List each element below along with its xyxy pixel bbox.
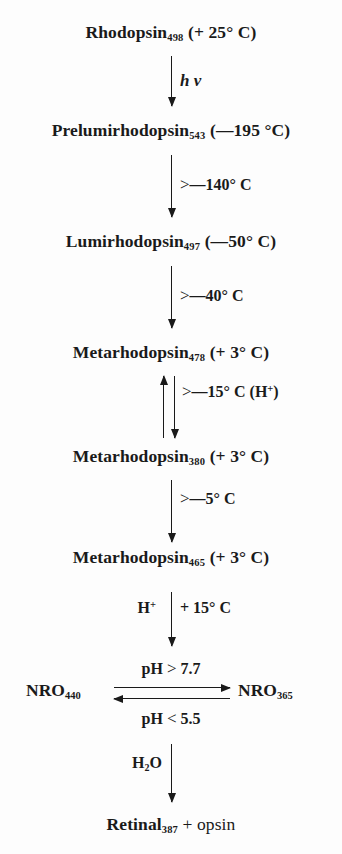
ph-value: 5.5 [176, 710, 200, 727]
arrow-photon-label: h v [180, 72, 201, 89]
species-subscript: 365 [277, 690, 293, 701]
arrow-to-metarhodopsin-465-label: >—5° C [180, 490, 236, 507]
species-retinal: Retinal387 + opsin [0, 816, 342, 835]
greater-than-symbol: > [180, 489, 190, 508]
arrow-to-metarhodopsin-478 [171, 266, 172, 328]
arrow-label-text: H [138, 599, 150, 616]
greater-than-symbol: > [182, 382, 192, 401]
species-name: NRO [238, 680, 277, 700]
species-metarhodopsin-465: Metarhodopsin465 (+ 3° C) [0, 549, 342, 568]
species-condition: (—195 °C) [210, 120, 290, 140]
arrow-photon [171, 56, 172, 106]
arrow-to-nro-right-label: + 15° C [180, 600, 231, 616]
arrow-to-lumirhodopsin-label: >—140° C [180, 176, 252, 193]
species-condition: (+ 3° C) [210, 547, 270, 567]
arrow-metarhodopsin-equilibrium-label: >—15° C (H+) [182, 383, 279, 400]
arrow-hydrolysis-label: H2O [132, 755, 162, 773]
water-tail: O [150, 754, 162, 771]
arrow-metarhodopsin-reverse [163, 376, 164, 438]
arrow-label-text: —15° C (H [192, 383, 268, 400]
species-subscript: 380 [189, 456, 205, 467]
arrow-label-text: —5° C [190, 490, 236, 507]
reaction-pathway-diagram: Rhodopsin498 (+ 25° C) h v Prelumirhodop… [0, 0, 342, 854]
arrow-label-tail: ) [273, 383, 278, 400]
arrow-to-metarhodopsin-478-label: >—40° C [180, 287, 244, 304]
species-nro-440: NRO440 [26, 682, 81, 701]
species-rhodopsin: Rhodopsin498 (+ 25° C) [0, 24, 342, 43]
species-metarhodopsin-380: Metarhodopsin380 (+ 3° C) [0, 448, 342, 467]
species-subscript: 543 [189, 130, 205, 141]
species-subscript: 478 [189, 352, 205, 363]
arrow-label-text: —40° C [190, 287, 244, 304]
species-name: Lumirhodopsin [66, 231, 184, 251]
species-prelumirhodopsin: Prelumirhodopsin543 (—195 °C) [0, 122, 342, 141]
species-name: Retinal [107, 814, 162, 834]
species-nro-365: NRO365 [238, 682, 293, 701]
equilibrium-reverse-label: pH < 5.5 [0, 710, 342, 727]
species-condition: (+ 3° C) [210, 446, 270, 466]
species-subscript: 440 [65, 690, 81, 701]
species-metarhodopsin-478: Metarhodopsin478 (+ 3° C) [0, 344, 342, 363]
arrow-to-nro-left-label: H+ [138, 600, 156, 616]
ph-text: pH [142, 710, 167, 727]
species-lumirhodopsin: Lumirhodopsin497 (—50° C) [0, 233, 342, 252]
species-condition: (+ 25° C) [188, 22, 256, 42]
arrow-label-text: —140° C [190, 176, 252, 193]
arrow-metarhodopsin-forward [174, 376, 175, 438]
arrow-to-nro [171, 592, 172, 646]
species-name: NRO [26, 680, 65, 700]
species-name: Metarhodopsin [73, 446, 189, 466]
species-subscript: 497 [184, 241, 200, 252]
arrow-to-metarhodopsin-465 [171, 480, 172, 542]
arrow-nro-reverse [114, 698, 230, 699]
species-condition: + opsin [183, 814, 236, 834]
species-name: Metarhodopsin [73, 342, 189, 362]
species-name: Metarhodopsin [73, 547, 189, 567]
greater-than-symbol: > [180, 286, 190, 305]
arrow-hydrolysis [171, 744, 172, 802]
arrow-to-lumirhodopsin [171, 155, 172, 217]
species-condition: (+ 3° C) [210, 342, 270, 362]
species-subscript: 387 [162, 824, 178, 835]
arrow-label-superscript: + [150, 599, 156, 610]
species-name: Prelumirhodopsin [52, 120, 189, 140]
species-subscript: 465 [189, 557, 205, 568]
equilibrium-forward-label: pH > 7.7 [0, 660, 342, 677]
water-text: H [132, 754, 144, 771]
ph-value: 7.7 [176, 660, 200, 677]
species-condition: (—50° C) [205, 231, 276, 251]
ph-text: pH [142, 660, 167, 677]
species-name: Rhodopsin [86, 22, 168, 42]
species-subscript: 498 [167, 32, 183, 43]
arrow-nro-forward [114, 687, 230, 688]
greater-than-symbol: > [180, 175, 190, 194]
